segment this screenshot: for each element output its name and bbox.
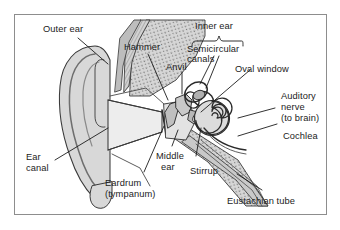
label-hammer: Hammer bbox=[124, 42, 160, 53]
label-stirrup: Stirrup bbox=[190, 166, 218, 177]
label-eardrum-line2: (tympanum) bbox=[105, 189, 156, 200]
leader-cochlea bbox=[238, 124, 277, 136]
label-semicircular-canals-line2: canals bbox=[187, 54, 214, 65]
label-outer-ear: Outer ear bbox=[43, 24, 83, 35]
label-auditory-nerve-line3: (to brain) bbox=[281, 113, 319, 124]
label-auditory-nerve-line1: Auditory bbox=[281, 91, 316, 102]
label-anvil: Anvil bbox=[166, 62, 187, 73]
label-inner-ear: Inner ear bbox=[195, 21, 233, 32]
label-auditory-nerve-line2: nerve bbox=[281, 102, 305, 113]
label-ear-canal-line2: canal bbox=[26, 163, 49, 174]
label-middle-ear-line1: Middle bbox=[156, 151, 184, 162]
vestibule bbox=[192, 89, 206, 101]
label-middle-ear-line2: ear bbox=[161, 162, 175, 173]
label-eustachian-tube: Eustachian tube bbox=[227, 196, 295, 207]
label-ear-canal-line1: Ear bbox=[26, 152, 41, 163]
label-oval-window: Oval window bbox=[235, 64, 289, 75]
label-eardrum-line1: Eardrum bbox=[105, 178, 141, 189]
ear-canal-cavity bbox=[108, 100, 162, 150]
ear-anatomy-figure: Outer ear Hammer Anvil Inner ear Semicir… bbox=[0, 0, 340, 230]
label-cochlea: Cochlea bbox=[283, 131, 318, 142]
leader-auditory-nerve bbox=[238, 108, 275, 118]
label-semicircular-canals-line1: Semicircular bbox=[187, 44, 239, 55]
leader-oval-window bbox=[201, 70, 250, 112]
